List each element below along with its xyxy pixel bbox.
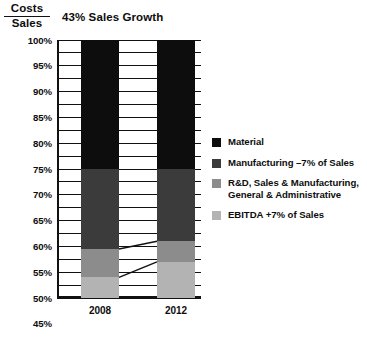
legend-swatch xyxy=(212,159,221,168)
y-axis-label-numerator: Costs xyxy=(4,2,50,16)
y-axis-tick-label: 85% xyxy=(33,111,52,122)
bar-segment[interactable] xyxy=(81,277,119,298)
legend-swatch xyxy=(212,211,221,220)
legend-label: Manufacturing –7% of Sales xyxy=(228,157,354,169)
legend-item[interactable]: EBITDA +7% of Sales xyxy=(212,209,364,221)
legend-label: Material xyxy=(228,136,264,148)
x-axis-tick-label: 2012 xyxy=(165,305,187,316)
legend-label-line2: General & Administrative xyxy=(228,189,359,201)
plot-area: 0%5%10%15%20%25%30%35%40%45%50%55%60%65%… xyxy=(57,40,201,298)
legend-item[interactable]: Material xyxy=(212,136,364,148)
legend-item[interactable]: Manufacturing –7% of Sales xyxy=(212,157,364,169)
y-axis-label: Costs Sales xyxy=(4,2,50,30)
bar-segment[interactable] xyxy=(157,40,195,169)
y-axis-tick-label: 45% xyxy=(33,318,52,329)
y-axis-tick-label: 95% xyxy=(33,60,52,71)
legend-swatch xyxy=(212,179,221,188)
chart-root: Costs Sales 43% Sales Growth 0%5%10%15%2… xyxy=(0,0,367,339)
bar-segment[interactable] xyxy=(157,169,195,241)
legend-label: R&D, Sales & Manufacturing,General & Adm… xyxy=(228,177,359,200)
bar-segment[interactable] xyxy=(81,169,119,249)
y-axis-tick-label: 75% xyxy=(33,163,52,174)
bar-segment[interactable] xyxy=(157,262,195,298)
chart-legend: MaterialManufacturing –7% of SalesR&D, S… xyxy=(212,136,364,230)
legend-swatch xyxy=(212,138,221,147)
x-axis-tick-label: 2008 xyxy=(89,305,111,316)
legend-item[interactable]: R&D, Sales & Manufacturing,General & Adm… xyxy=(212,177,364,200)
bar-2008[interactable]: 2008 xyxy=(81,40,119,298)
bar-segment[interactable] xyxy=(157,241,195,262)
connector-line xyxy=(119,262,157,277)
bar-segment[interactable] xyxy=(81,249,119,277)
bar-2012[interactable]: 2012 xyxy=(157,40,195,298)
y-axis-tick-label: 65% xyxy=(33,215,52,226)
chart-title: 43% Sales Growth xyxy=(62,11,163,23)
y-axis-tick-label: 55% xyxy=(33,266,52,277)
y-axis-tick-label: 50% xyxy=(33,292,52,303)
y-axis-tick-label: 80% xyxy=(33,137,52,148)
y-axis-label-denominator: Sales xyxy=(4,16,50,31)
y-axis-tick-label: 100% xyxy=(28,34,52,45)
y-axis-tick-label: 70% xyxy=(33,189,52,200)
legend-label: EBITDA +7% of Sales xyxy=(228,209,324,221)
y-axis-tick-label: 90% xyxy=(33,86,52,97)
y-axis-tick-label: 60% xyxy=(33,240,52,251)
bar-segment[interactable] xyxy=(81,40,119,169)
